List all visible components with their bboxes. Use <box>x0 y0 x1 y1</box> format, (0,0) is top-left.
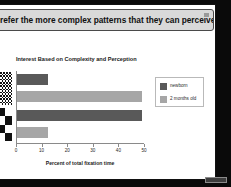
bar-chart-plot-area: 0 10 20 30 40 50 <box>16 71 144 143</box>
fine-checkerboard-icon <box>0 72 12 105</box>
legend-swatch-two-months-old <box>160 96 167 103</box>
x-tick-label-10: 10 <box>39 148 44 153</box>
x-tick-label-0: 0 <box>15 148 18 153</box>
bar-twomonth-coarse <box>17 127 48 138</box>
slide-header-text: prefer the more complex patterns that th… <box>0 15 214 25</box>
presentation-slide: prefer the more complex patterns that th… <box>0 4 216 180</box>
x-tick-0 <box>16 144 17 147</box>
x-tick-50 <box>144 144 145 147</box>
x-tick-40 <box>118 144 119 147</box>
video-player-screen: prefer the more complex patterns that th… <box>0 0 231 187</box>
bar-newborn-coarse <box>17 110 142 121</box>
chart-title: Interest Based on Complexity and Percept… <box>16 56 137 62</box>
coarse-checkerboard-icon <box>0 108 12 141</box>
corner-mark-icon <box>204 13 209 17</box>
x-tick-30 <box>93 144 94 147</box>
player-bottom-badge[interactable] <box>205 177 227 183</box>
bar-newborn-fine <box>17 74 48 85</box>
x-tick-label-20: 20 <box>65 148 70 153</box>
x-axis-line <box>16 143 144 144</box>
x-axis-label: Percent of total fixation time <box>46 160 115 166</box>
legend-label-newborn: newborn <box>170 83 188 88</box>
chart-legend: newborn 2 months old <box>155 77 204 107</box>
x-tick-20 <box>67 144 68 147</box>
x-tick-10 <box>42 144 43 147</box>
legend-label-two-months-old: 2 months old <box>170 96 196 101</box>
x-tick-label-40: 40 <box>116 148 121 153</box>
bar-twomonth-fine <box>17 91 142 102</box>
x-tick-label-50: 50 <box>141 148 146 153</box>
legend-swatch-newborn <box>160 83 167 90</box>
slide-header-banner: prefer the more complex patterns that th… <box>0 9 214 31</box>
x-tick-label-30: 30 <box>90 148 95 153</box>
